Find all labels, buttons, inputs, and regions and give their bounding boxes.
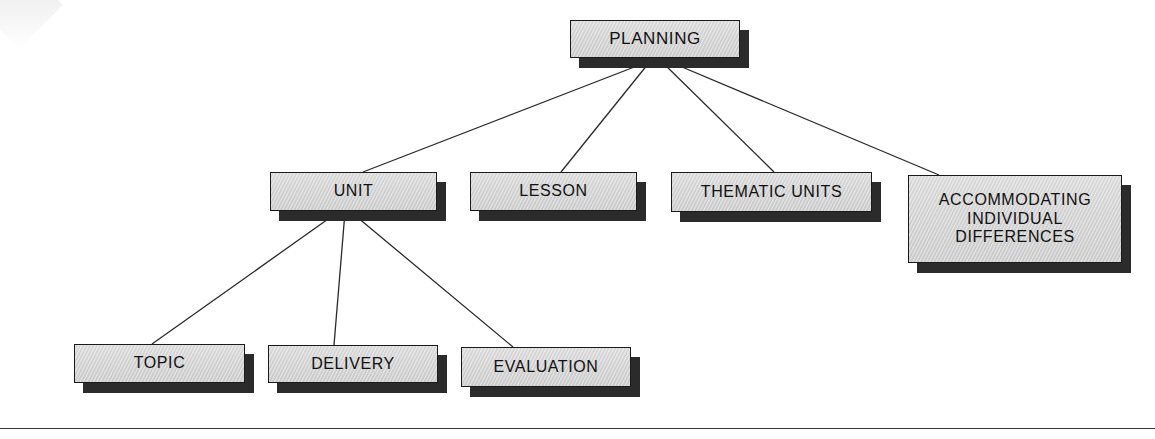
node-accommodating-individual-differences[interactable]: ACCOMMODATING INDIVIDUAL DIFFERENCES — [908, 175, 1122, 263]
connector-planning-to-lesson — [561, 59, 652, 172]
node-label-evaluation: EVALUATION — [494, 358, 599, 377]
node-unit[interactable]: UNIT — [270, 172, 437, 211]
node-label-topic: TOPIC — [134, 354, 186, 373]
page-corner-artifact — [0, 0, 63, 49]
node-evaluation[interactable]: EVALUATION — [461, 347, 631, 387]
diagram-canvas: PLANNINGUNITLESSONTHEMATIC UNITSACCOMMOD… — [0, 0, 1155, 439]
node-label-delivery: DELIVERY — [311, 355, 395, 374]
connector-planning-to-unit — [363, 59, 655, 172]
node-label-planning: PLANNING — [609, 29, 701, 49]
node-label-lesson: LESSON — [519, 182, 588, 201]
node-lesson[interactable]: LESSON — [470, 172, 637, 211]
node-label-thematic-units: THEMATIC UNITS — [701, 183, 842, 202]
connector-unit-to-evaluation — [351, 212, 513, 347]
node-delivery[interactable]: DELIVERY — [268, 345, 438, 383]
connector-unit-to-delivery — [334, 212, 345, 345]
connector-planning-to-thematic-units — [659, 59, 774, 172]
node-label-unit: UNIT — [334, 182, 374, 201]
connector-unit-to-topic — [152, 212, 338, 344]
node-topic[interactable]: TOPIC — [74, 344, 245, 383]
connector-planning-to-accommodating-individual-differences — [663, 59, 939, 175]
node-thematic-units[interactable]: THEMATIC UNITS — [671, 172, 872, 212]
bottom-divider-rule — [0, 428, 1155, 429]
node-label-accommodating-individual-differences: ACCOMMODATING INDIVIDUAL DIFFERENCES — [939, 191, 1091, 247]
node-planning[interactable]: PLANNING — [570, 20, 740, 58]
